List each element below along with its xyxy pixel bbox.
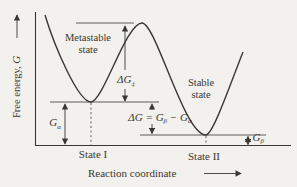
metastable-state-label-line2: state <box>78 44 98 55</box>
g-beta-label: Gβ <box>253 131 265 146</box>
g-alpha-label: Gα <box>49 116 61 131</box>
y-axis-label: Free energy, G <box>10 56 22 118</box>
state1-tick-label: State I <box>79 148 108 160</box>
x-axis-label: Reaction coordinate <box>88 167 176 179</box>
activation-energy-label: ΔG‡ <box>116 73 135 88</box>
state2-tick-label: State II <box>188 150 220 162</box>
stable-state-label-line2: state <box>191 89 211 100</box>
stable-state-label-line1: Stable <box>188 77 215 88</box>
diagram-canvas: Free energy, G ΔG‡ ΔG = Gβ − Gα Gα Gβ Me… <box>0 0 297 187</box>
free-energy-diagram: Free energy, G ΔG‡ ΔG = Gβ − Gα Gα Gβ Me… <box>0 0 297 187</box>
metastable-state-label-line1: Metastable <box>65 32 111 43</box>
delta-g-label: ΔG = Gβ − Gα <box>127 111 192 126</box>
